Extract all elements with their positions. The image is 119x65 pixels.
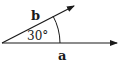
vector-diagram: b 30° a [0, 0, 119, 65]
vector-b-label: b [31, 8, 40, 23]
vector-a-label: a [58, 48, 67, 63]
angle-label: 30° [27, 29, 48, 43]
angle-arc [53, 16, 60, 43]
